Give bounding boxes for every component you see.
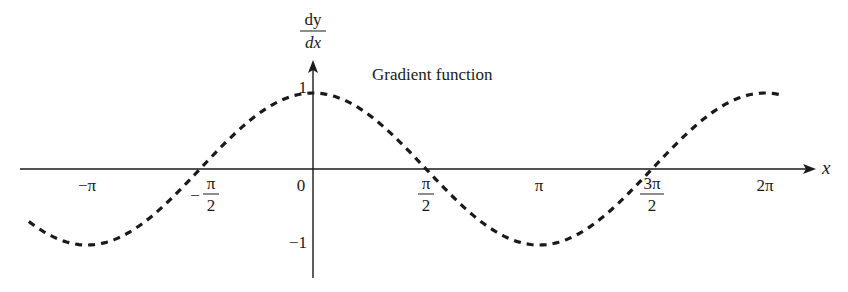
x-tick-label: 0 [297, 176, 306, 195]
x-tick-label: π [535, 176, 544, 195]
x-tick-denominator: 2 [648, 196, 657, 215]
y-axis-label-numerator: dy [305, 10, 323, 29]
x-tick-label: −π [78, 176, 97, 195]
x-tick-text: −π [78, 176, 97, 195]
x-tick-sign: − [190, 186, 200, 205]
x-tick-text: 0 [297, 176, 306, 195]
gradient-function-annotation: Gradient function [372, 65, 493, 84]
x-tick-numerator: π [207, 174, 216, 193]
x-tick-denominator: 2 [422, 196, 431, 215]
x-tick-label: 3π2 [640, 174, 664, 215]
x-tick-label: π2 [418, 174, 434, 215]
y-axis-label: dy dx [300, 10, 326, 52]
x-tick-label: 2π [756, 176, 774, 195]
y-axis-label-denominator: dx [305, 33, 322, 52]
x-tick-labels: −ππ2−0π2π3π22π [78, 174, 774, 215]
y-tick-label: −1 [289, 233, 307, 252]
x-tick-text: π [535, 176, 544, 195]
axes [20, 60, 816, 278]
x-tick-text: 2π [756, 176, 774, 195]
x-tick-numerator: 3π [643, 174, 661, 193]
x-tick-label: π2− [190, 174, 219, 215]
x-tick-denominator: 2 [207, 196, 216, 215]
gradient-function-chart: x dy dx −ππ2−0π2π3π22π 1−1 Gradient func… [0, 0, 848, 292]
x-axis-label: x [821, 157, 831, 178]
y-tick-labels: 1−1 [289, 78, 307, 252]
x-tick-numerator: π [422, 174, 431, 193]
